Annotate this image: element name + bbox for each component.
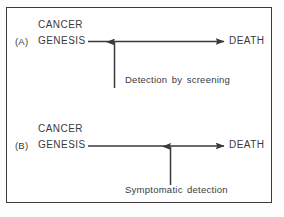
panel-a-origin-line1: CANCER xyxy=(38,20,83,30)
panel-b-origin-line1: CANCER xyxy=(38,124,83,134)
panel-a-endpoint-label: DEATH xyxy=(229,36,264,46)
panel-b-origin-line2: GENESIS xyxy=(38,140,86,150)
panel-b-letter: (B) xyxy=(15,141,28,151)
figure-container: (A) CANCER GENESIS DEATH Detection by sc… xyxy=(0,0,284,217)
panel-a-annotation: Detection by screening xyxy=(125,75,230,85)
panel-a-origin-line2: GENESIS xyxy=(38,36,86,46)
panel-a-letter: (A) xyxy=(15,37,28,47)
panel-b-endpoint-label: DEATH xyxy=(229,140,264,150)
panel-b-annotation: Symptomatic detection xyxy=(125,185,228,195)
